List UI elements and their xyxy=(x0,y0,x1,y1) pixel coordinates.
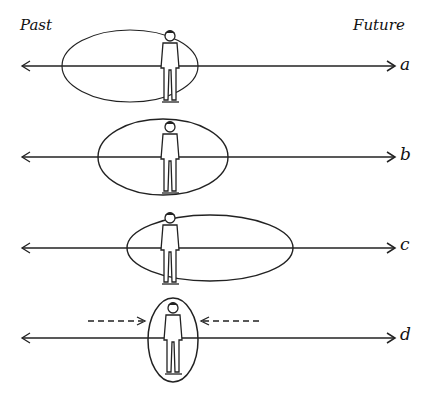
row-label-c: c xyxy=(400,234,410,254)
timeline-diagram xyxy=(0,0,435,398)
row-label-d: d xyxy=(400,324,411,344)
row-label-b: b xyxy=(400,144,411,164)
row-a xyxy=(22,30,395,102)
row-b xyxy=(22,119,395,195)
row-d xyxy=(22,298,395,382)
row-label-a: a xyxy=(400,54,410,74)
row-c xyxy=(22,212,395,284)
